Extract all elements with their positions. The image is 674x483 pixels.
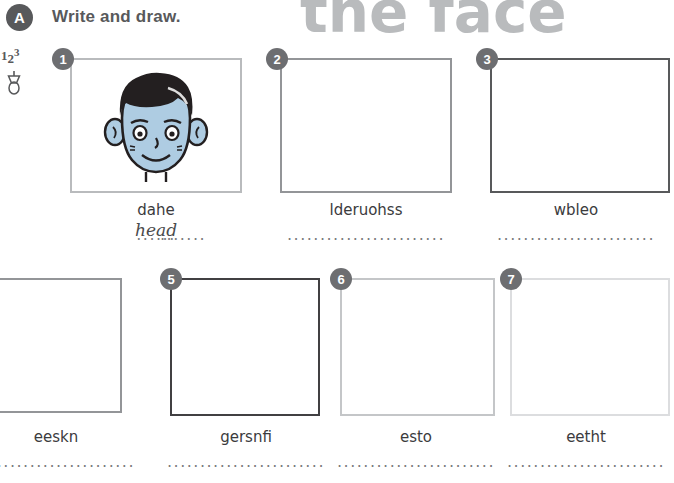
- answer-line-dots-6[interactable]: ........................: [330, 452, 502, 471]
- instruction-text: Write and draw.: [52, 7, 181, 27]
- answer-line-dots-7[interactable]: ........................: [500, 452, 672, 471]
- drawing-box-3[interactable]: [490, 58, 670, 193]
- item-number-badge-7: 7: [500, 268, 522, 290]
- scrambled-word-4: eeskn: [0, 428, 142, 446]
- drawing-box-5[interactable]: [170, 278, 320, 416]
- answer-line-dots-2[interactable]: ........................: [280, 225, 452, 244]
- scrambled-word-5: gersnfi: [160, 428, 332, 446]
- drawing-box-1[interactable]: [70, 58, 242, 193]
- scrambled-word-1: dahe: [70, 201, 242, 219]
- page-title: the face: [300, 0, 567, 46]
- scrambled-word-7: eetht: [500, 428, 672, 446]
- exercise-row-1: 1 dahe ...... head ....... 2 lderuohss .…: [0, 48, 659, 258]
- page-header: A Write and draw. the face: [0, 0, 659, 48]
- answer-line-dots-5[interactable]: ........................: [160, 452, 332, 471]
- item-number-badge-3: 3: [476, 48, 498, 70]
- item-number-badge-1: 1: [52, 48, 74, 70]
- drawing-box-6[interactable]: [340, 278, 495, 416]
- scrambled-word-6: esto: [330, 428, 502, 446]
- item-number-badge-6: 6: [330, 268, 352, 290]
- drawing-box-4[interactable]: [0, 278, 122, 413]
- answer-line-dots-4[interactable]: ........................: [0, 452, 142, 471]
- scrambled-word-3: wbleo: [490, 201, 662, 219]
- section-badge-a: A: [6, 4, 33, 31]
- drawing-box-2[interactable]: [280, 58, 452, 193]
- item-number-badge-2: 2: [266, 48, 288, 70]
- scrambled-word-2: lderuohss: [280, 201, 452, 219]
- drawing-box-7[interactable]: [510, 278, 670, 416]
- answer-line-dots-1-right[interactable]: .......: [160, 225, 250, 244]
- item-number-badge-5: 5: [160, 268, 182, 290]
- exercise-row-2: 4 eeskn ........................ 5 gersn…: [0, 268, 659, 483]
- answer-line-dots-3[interactable]: ........................: [490, 225, 662, 244]
- boy-face-illustration: [72, 60, 240, 191]
